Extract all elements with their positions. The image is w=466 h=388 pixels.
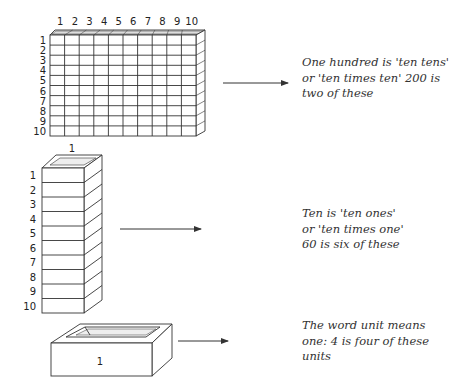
column-label: 1 xyxy=(69,143,75,154)
caption-line: or 'ten times ten' 200 is xyxy=(302,71,449,87)
column-label: 9 xyxy=(174,16,180,27)
caption-ten: Ten is 'ten ones' or 'ten times one' 60 … xyxy=(302,206,404,253)
caption-line: One hundred is 'ten tens' xyxy=(302,55,449,71)
column-label: 5 xyxy=(116,16,122,27)
caption-line: or 'ten times one' xyxy=(302,222,404,238)
caption-line: The word unit means xyxy=(302,318,429,334)
caption-unit: The word unit means one: 4 is four of th… xyxy=(302,318,429,365)
caption-hundred: One hundred is 'ten tens' or 'ten times … xyxy=(302,55,449,102)
column-label: 10 xyxy=(185,16,198,27)
column-label: 2 xyxy=(72,16,78,27)
unit-face-label: 1 xyxy=(97,356,103,367)
caption-line: one: 4 is four of these xyxy=(302,334,429,350)
column-label: 3 xyxy=(86,16,92,27)
ten-top-label: 1 xyxy=(69,143,75,154)
unit-block xyxy=(51,324,172,376)
hundred-row-labels: 12345678910 xyxy=(33,35,46,137)
row-label: 10 xyxy=(33,126,46,137)
row-label: 8 xyxy=(30,272,36,283)
caption-line: Ten is 'ten ones' xyxy=(302,206,404,222)
row-label: 6 xyxy=(30,243,36,254)
column-label: 1 xyxy=(57,16,63,27)
column-label: 8 xyxy=(159,16,165,27)
row-label: 4 xyxy=(30,214,36,225)
ten-row-labels: 12345678910 xyxy=(23,170,36,312)
row-label: 9 xyxy=(30,286,36,297)
row-label: 1 xyxy=(30,170,36,181)
ten-block xyxy=(42,155,102,313)
column-label: 6 xyxy=(130,16,136,27)
hundred-column-labels: 12345678910 xyxy=(57,16,198,27)
row-label: 2 xyxy=(30,185,36,196)
caption-line: two of these xyxy=(302,86,449,102)
caption-line: units xyxy=(302,349,429,365)
row-label: 3 xyxy=(30,199,36,210)
row-label: 7 xyxy=(30,257,36,268)
row-label: 10 xyxy=(23,301,36,312)
column-label: 4 xyxy=(101,16,107,27)
column-label: 7 xyxy=(145,16,151,27)
hundred-block xyxy=(50,30,205,136)
caption-line: 60 is six of these xyxy=(302,237,404,253)
row-label: 5 xyxy=(30,228,36,239)
